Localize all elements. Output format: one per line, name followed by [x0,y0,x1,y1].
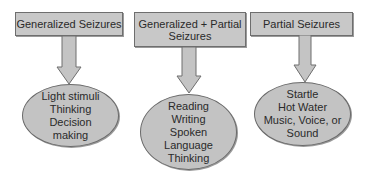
category-box-generalized: Generalized Seizures [15,12,123,36]
trigger-item: Reading [168,100,209,113]
trigger-item: Writing [171,113,205,126]
arrow-down-icon [292,35,318,84]
arrow-down-icon [176,47,202,95]
trigger-item: Startle [287,88,319,101]
category-label-line-1: Generalized + Partial [138,18,241,30]
trigger-item: Sound [287,127,319,140]
category-box-generalized-partial: Generalized + Partial Seizures [134,12,246,47]
arrow-down-icon [56,36,82,86]
trigger-item: Decision [49,116,91,129]
category-label: Generalized Seizures [16,18,121,30]
trigger-item: Thinking [168,152,210,165]
trigger-item: Music, Voice, or [264,114,342,127]
category-box-partial: Partial Seizures [250,12,353,36]
category-label-line-2: Seizures [169,30,212,42]
trigger-item: making [53,129,88,142]
trigger-item: Language [164,139,213,152]
trigger-ellipse-partial: Startle Hot Water Music, Voice, or Sound [254,82,351,146]
trigger-item: Thinking [50,103,92,116]
trigger-ellipse-generalized: Light stimuli Thinking Decision making [22,84,119,147]
trigger-item: Light stimuli [41,90,99,103]
trigger-item: Hot Water [278,101,327,114]
trigger-item: Spoken [170,126,207,139]
category-label: Partial Seizures [263,18,340,30]
trigger-ellipse-generalized-partial: Reading Writing Spoken Language Thinking [140,94,237,170]
